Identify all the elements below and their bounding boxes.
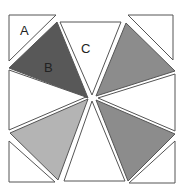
shape-group xyxy=(9,15,175,183)
quilt-diagram: A B C xyxy=(0,0,184,193)
label-c: C xyxy=(81,41,90,56)
label-a: A xyxy=(20,23,29,38)
label-b: B xyxy=(44,60,53,75)
